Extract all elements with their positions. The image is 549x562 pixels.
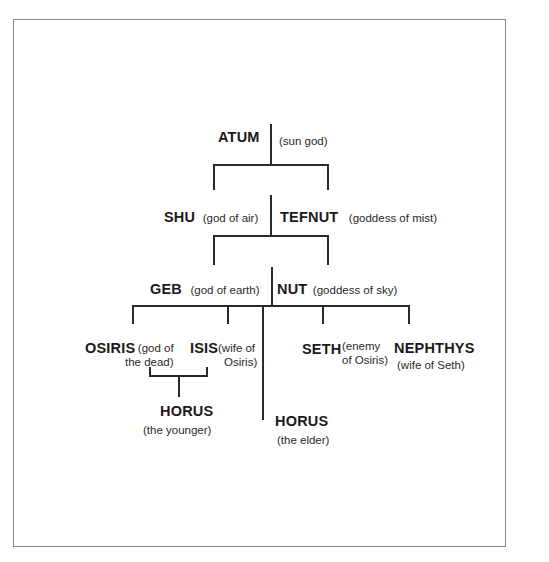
connector-to-horus-elder [262, 305, 264, 420]
node-atum-desc: (sun god) [279, 131, 328, 149]
connector-shu-tefnut-bar [213, 235, 329, 237]
node-isis: ISIS [190, 339, 218, 357]
connector-to-horus-younger [178, 375, 180, 397]
connector-to-osiris [132, 305, 134, 324]
node-isis-desc: (wife of Osiris) [218, 341, 257, 369]
node-seth: SETH [302, 340, 341, 358]
connector-to-seth [322, 305, 324, 324]
node-geb: GEB (god of earth) [150, 280, 260, 298]
connector-to-nut [327, 235, 329, 265]
connector-shu-tefnut-stem [270, 195, 272, 236]
connector-geb-nut-bar [132, 305, 410, 307]
connector-to-tefnut [327, 164, 329, 190]
node-seth-desc: (enemy of Osiris) [342, 339, 388, 367]
node-atum: ATUM [218, 128, 260, 146]
connector-atum-stem [270, 124, 272, 165]
connector-to-isis [227, 305, 229, 324]
node-name: ATUM [218, 129, 260, 145]
node-nut: NUT (goddess of sky) [277, 280, 397, 298]
connector-atum-bar [213, 164, 329, 166]
node-horus-elder-desc: (the elder) [277, 430, 329, 448]
connector-geb-nut-stem [271, 267, 273, 306]
node-shu: SHU (god of air) [164, 208, 258, 226]
node-nephthys-desc: (wife of Seth) [397, 355, 465, 373]
connector-to-nephthys [408, 305, 410, 324]
node-tefnut: TEFNUT (goddess of mist) [280, 208, 437, 226]
node-horus-younger-desc: (the younger) [143, 420, 211, 438]
node-osiris-desc: (god of the dead) [135, 341, 174, 369]
node-horus-younger: HORUS [160, 402, 213, 420]
connector-to-shu [213, 164, 215, 190]
node-horus-elder: HORUS [275, 412, 328, 430]
connector-to-geb [213, 235, 215, 265]
